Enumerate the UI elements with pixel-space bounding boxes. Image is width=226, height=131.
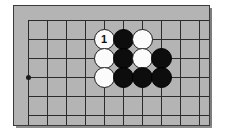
grid-line-horizontal	[28, 20, 210, 21]
grid-line-horizontal	[28, 96, 210, 97]
stone-black[interactable]	[113, 29, 134, 50]
move-number-label: 1	[101, 34, 107, 45]
grid-line-vertical	[47, 20, 48, 125]
stone-black[interactable]	[113, 48, 134, 69]
go-diagram-screenshot: 1	[0, 0, 226, 131]
go-board[interactable]: 1	[14, 6, 209, 125]
stone-white[interactable]	[94, 67, 115, 88]
stone-white[interactable]	[132, 48, 153, 69]
grid-line-vertical	[85, 20, 86, 125]
diagram-frame: 1	[13, 5, 210, 126]
stone-black[interactable]	[151, 67, 172, 88]
frame-shadow-bottom	[16, 126, 212, 128]
grid-line-vertical	[180, 20, 181, 125]
stone-white[interactable]	[94, 48, 115, 69]
stone-black[interactable]	[113, 67, 134, 88]
stone-black[interactable]	[132, 67, 153, 88]
grid-line-vertical	[28, 20, 29, 125]
stone-black[interactable]	[151, 48, 172, 69]
stone-white-move-1[interactable]: 1	[94, 29, 115, 50]
star-point	[26, 75, 31, 80]
grid-line-vertical	[66, 20, 67, 125]
grid-line-vertical	[199, 20, 200, 125]
stone-white[interactable]	[132, 29, 153, 50]
grid-line-horizontal	[28, 115, 210, 116]
frame-shadow-right	[210, 8, 212, 128]
